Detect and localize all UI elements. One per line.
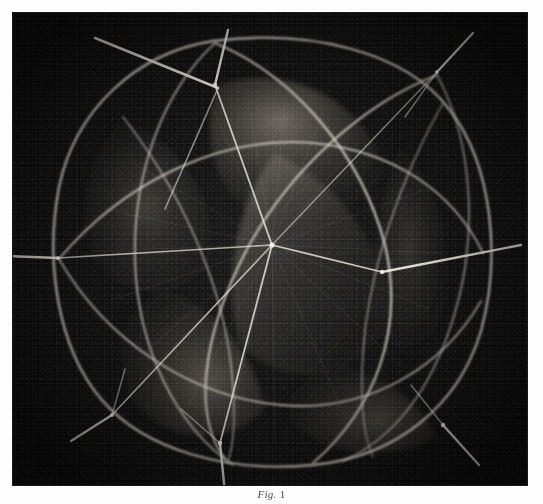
figure-label: Fig. xyxy=(257,488,276,500)
geometric-model-illustration xyxy=(13,13,527,485)
figure-number: 1 xyxy=(280,488,286,500)
figure-caption: Fig. 1 xyxy=(0,487,543,504)
page-root: Fig. 1 xyxy=(0,0,543,504)
photographic-plate xyxy=(13,13,527,485)
